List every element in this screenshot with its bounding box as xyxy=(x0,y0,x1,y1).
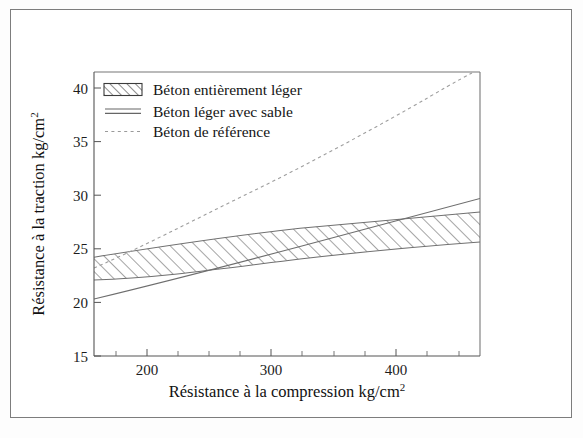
y-tick-label: 20 xyxy=(73,295,88,311)
y-axis-title: Résistance à la traction kg/cm2 xyxy=(28,112,48,315)
x-tick-labels: 200 300 400 xyxy=(136,362,408,378)
x-axis xyxy=(94,349,480,356)
legend-swatch-hatched-band xyxy=(104,84,142,96)
x-axis-title: Résistance à la compression kg/cm2 xyxy=(169,381,405,401)
x-axis-title-exponent: 2 xyxy=(400,381,406,393)
chart-legend: Béton entièrement léger Béton léger avec… xyxy=(104,81,303,140)
x-tick-label: 300 xyxy=(260,362,283,378)
y-tick-label: 40 xyxy=(73,81,88,97)
legend-label-beton-entierement-leger: Béton entièrement léger xyxy=(153,81,303,98)
y-tick-label: 35 xyxy=(73,134,88,150)
y-axis-title-exponent: 2 xyxy=(28,112,40,118)
y-axis-title-text: Résistance à la traction kg/cm xyxy=(29,118,48,316)
svg-text:Résistance à la traction kg/cm: Résistance à la traction kg/cm2 xyxy=(28,112,48,315)
figure-root: 40 35 30 25 20 15 xyxy=(0,0,583,438)
y-axis xyxy=(94,72,101,356)
chart-canvas: 40 35 30 25 20 15 xyxy=(0,0,583,438)
legend-label-beton-de-reference: Béton de référence xyxy=(153,123,270,140)
x-tick-label: 400 xyxy=(385,362,408,378)
y-tick-label: 15 xyxy=(73,349,88,365)
y-tick-label: 25 xyxy=(73,241,88,257)
y-tick-label: 30 xyxy=(73,188,88,204)
x-axis-title-text: Résistance à la compression kg/cm xyxy=(169,382,400,401)
svg-text:Résistance à la compression kg: Résistance à la compression kg/cm2 xyxy=(169,381,405,401)
x-tick-label: 200 xyxy=(136,362,159,378)
series-beton-entierement-leger xyxy=(94,212,480,280)
y-tick-labels: 40 35 30 25 20 15 xyxy=(73,81,88,365)
legend-label-beton-leger-avec-sable: Béton léger avec sable xyxy=(153,103,293,120)
